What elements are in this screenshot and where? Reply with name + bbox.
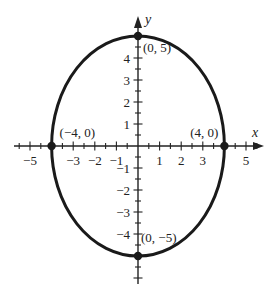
x-axis-arrow-icon [253, 142, 264, 150]
x-tick-label: 5 [243, 153, 250, 168]
x-tick-label: 2 [178, 153, 185, 168]
y-tick-label: −1 [116, 161, 130, 176]
point-label: (0, −5) [141, 230, 177, 245]
point-marker [134, 252, 142, 260]
x-tick-label: −3 [66, 153, 80, 168]
point-marker [47, 142, 55, 150]
x-tick-label: −2 [88, 153, 102, 168]
y-tick-label: 4 [124, 51, 131, 66]
y-tick-label: 1 [124, 117, 131, 132]
y-axis-arrow-icon [134, 16, 142, 28]
y-tick-label: 3 [124, 73, 131, 88]
x-tick-label: −5 [23, 153, 37, 168]
point-label: (0, 5) [143, 40, 171, 55]
x-tick-label: 1 [156, 153, 163, 168]
point-marker [220, 142, 228, 150]
y-tick-label: 2 [124, 95, 131, 110]
x-tick-label: 3 [200, 153, 207, 168]
y-tick-label: −3 [116, 205, 130, 220]
point-label: (4, 0) [190, 125, 218, 140]
point-label: (−4, 0) [60, 125, 96, 140]
y-tick-label: −2 [116, 183, 130, 198]
point-marker [134, 32, 142, 40]
y-axis-label: y [143, 12, 152, 27]
y-tick-label: −4 [116, 227, 130, 242]
ellipse-plot: −5−3−2−112354321−1−2−3−4 (0, 5)(−4, 0)(4… [0, 0, 278, 290]
x-axis-label: x [251, 125, 259, 140]
